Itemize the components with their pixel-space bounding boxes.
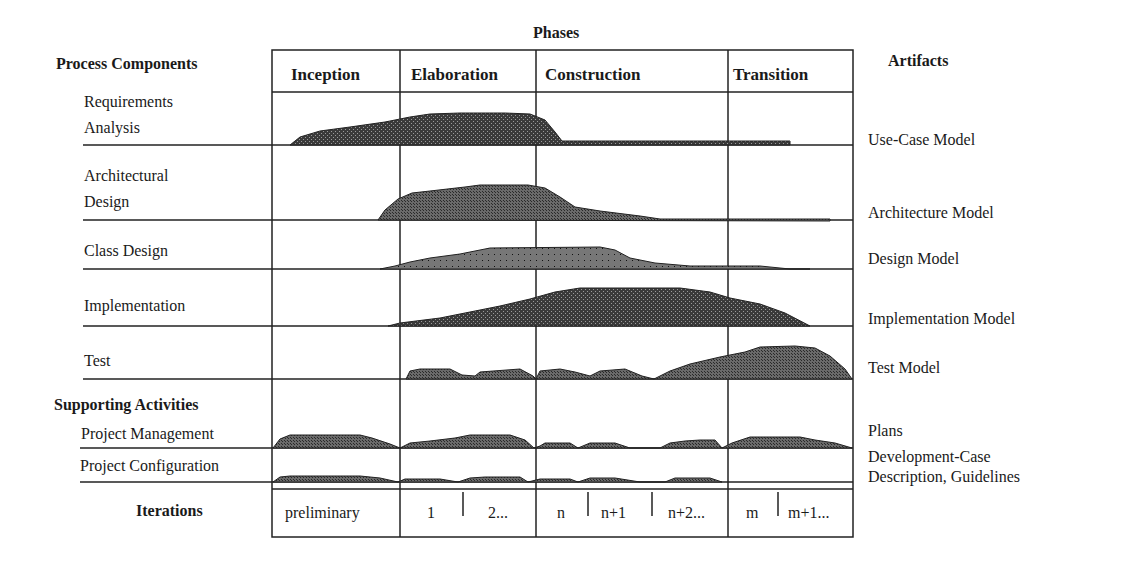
iteration-cell: m+1... bbox=[788, 503, 829, 523]
supporting-activities-heading: Supporting Activities bbox=[54, 396, 198, 414]
artifact-use-case-model: Use-Case Model bbox=[868, 130, 975, 150]
component-class-design: Class Design bbox=[84, 241, 168, 261]
phase-elaboration: Elaboration bbox=[411, 65, 498, 85]
component-requirements-line1: Requirements bbox=[84, 92, 173, 112]
iterations-label: Iterations bbox=[136, 502, 203, 520]
iteration-cell: preliminary bbox=[285, 503, 360, 523]
artifact-development-case-line1: Development-Case bbox=[868, 447, 991, 467]
iteration-cell: 2... bbox=[488, 503, 508, 523]
component-requirements-line2: Analysis bbox=[84, 118, 140, 138]
hump-architecture bbox=[378, 185, 830, 221]
artifact-plans: Plans bbox=[868, 421, 903, 441]
iteration-cell: n+2... bbox=[668, 503, 705, 523]
hump-implementation bbox=[388, 288, 810, 326]
phase-transition: Transition bbox=[733, 65, 808, 85]
artifact-test-model: Test Model bbox=[868, 358, 940, 378]
hump-project-configuration bbox=[273, 476, 722, 482]
artifact-architecture-model: Architecture Model bbox=[868, 203, 994, 223]
iteration-cell: m bbox=[746, 503, 758, 523]
component-test: Test bbox=[84, 351, 110, 371]
process-components-heading: Process Components bbox=[56, 55, 197, 73]
iteration-cell: n bbox=[557, 503, 565, 523]
activity-project-configuration: Project Configuration bbox=[80, 456, 219, 476]
hump-test bbox=[406, 346, 852, 379]
iteration-cell: n+1 bbox=[601, 503, 626, 523]
hump-project-management bbox=[273, 435, 852, 448]
activity-project-management: Project Management bbox=[81, 424, 214, 444]
iteration-cell: 1 bbox=[427, 503, 435, 523]
phase-construction: Construction bbox=[545, 65, 640, 85]
phase-inception: Inception bbox=[291, 65, 360, 85]
artifact-design-model: Design Model bbox=[868, 249, 959, 269]
component-implementation: Implementation bbox=[84, 296, 185, 316]
component-architectural-line2: Design bbox=[84, 192, 129, 212]
component-architectural-line1: Architectural bbox=[84, 166, 168, 186]
hump-requirements bbox=[290, 113, 790, 145]
artifacts-heading: Artifacts bbox=[888, 52, 948, 70]
hump-class-design bbox=[380, 247, 810, 269]
phases-title: Phases bbox=[533, 24, 579, 42]
artifact-development-case-line2: Description, Guidelines bbox=[868, 467, 1020, 487]
artifact-implementation-model: Implementation Model bbox=[868, 309, 1015, 329]
